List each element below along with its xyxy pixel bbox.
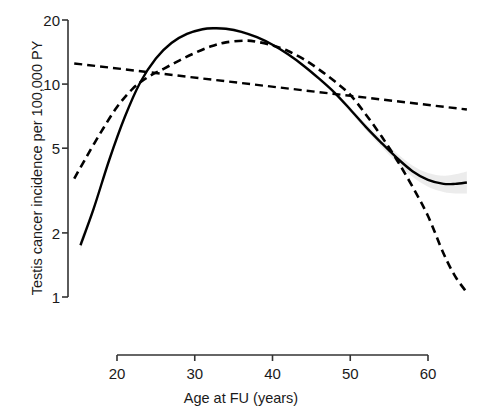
x-tick-label: 60	[420, 365, 437, 382]
confidence-band	[80, 27, 466, 251]
x-tick-label: 50	[342, 365, 359, 382]
series-line-dashed-linear-trend	[74, 63, 467, 109]
x-tick-label: 30	[186, 365, 203, 382]
chart-plot-area	[0, 0, 482, 417]
confidence-band-group	[80, 27, 466, 251]
x-axis-title: Age at FU (years)	[0, 390, 482, 406]
x-tick-label: 40	[264, 365, 281, 382]
x-tick-label: 20	[109, 365, 126, 382]
axis-group	[62, 20, 428, 361]
chart-figure: 2010521 2030405060 Testis cancer inciden…	[0, 0, 482, 417]
y-axis-title: Testis cancer incidence per 100,000 PY	[29, 18, 45, 318]
data-series-group	[74, 28, 467, 292]
series-line-solid-spline	[80, 28, 466, 245]
